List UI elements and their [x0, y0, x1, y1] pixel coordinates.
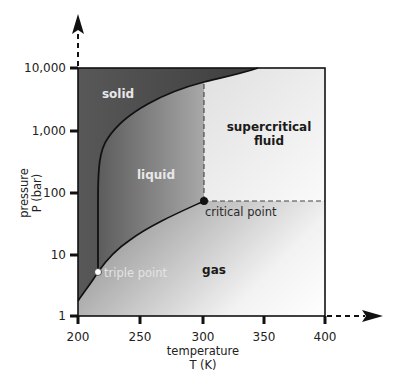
triple-point-label: triple point	[104, 266, 167, 280]
x-axis-arrowhead-icon	[362, 310, 383, 322]
x-tick-label-400: 400	[314, 330, 337, 344]
gas-label: gas	[202, 263, 226, 277]
y-tick-label-10000: 10,000	[24, 61, 66, 75]
y-axis-title-line1: pressure	[17, 168, 31, 218]
x-ticks	[78, 316, 325, 324]
critical-point-marker	[200, 197, 208, 205]
x-tick-label-250: 250	[129, 330, 152, 344]
triple-point-marker	[95, 269, 102, 276]
y-axis-arrowhead-icon	[72, 14, 84, 34]
x-tick-label-300: 300	[192, 330, 215, 344]
phase-diagram: 10,000 1,000 100 10 1 200 250 300 350 40…	[0, 0, 397, 385]
x-axis-title-line2: T (K)	[188, 358, 216, 372]
y-tick-label-1: 1	[58, 309, 66, 323]
x-tick-label-350: 350	[253, 330, 276, 344]
y-axis-title-line2: P (bar)	[30, 174, 44, 213]
y-tick-label-1000: 1,000	[32, 124, 66, 138]
y-tick-label-10: 10	[51, 248, 66, 262]
y-ticks	[70, 68, 78, 316]
solid-label: solid	[102, 87, 134, 101]
y-tick-label-100: 100	[43, 186, 66, 200]
supercritical-label-line2: fluid	[254, 134, 284, 148]
x-axis-title-line1: temperature	[167, 344, 239, 358]
supercritical-label-line1: supercritical	[227, 120, 312, 134]
liquid-label: liquid	[137, 168, 175, 182]
x-tick-label-200: 200	[67, 330, 90, 344]
critical-point-label: critical point	[205, 205, 277, 219]
